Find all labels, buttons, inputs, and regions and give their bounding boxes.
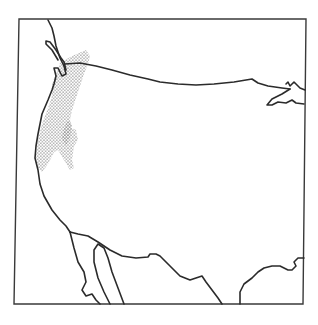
map-canvas [0, 0, 318, 325]
gulf-coast-texas [240, 258, 304, 304]
canada-us-border [65, 63, 290, 89]
gulf-of-california [94, 244, 124, 304]
map-frame [14, 19, 306, 304]
us-mexico-border [70, 232, 222, 304]
lake-superior [267, 82, 305, 105]
range-map [0, 0, 318, 325]
